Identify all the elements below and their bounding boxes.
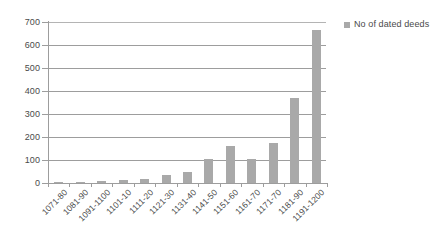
x-axis-tick <box>155 183 156 187</box>
bar <box>247 159 256 183</box>
bar <box>312 30 321 183</box>
y-axis-labels: 0100200300400500600700 <box>0 0 40 237</box>
x-axis-tick <box>284 183 285 187</box>
x-axis-tick <box>69 183 70 187</box>
x-axis-labels: 1071-801081-901091-11001101-101111-20112… <box>48 188 327 237</box>
y-axis-tick-label: 500 <box>0 64 40 73</box>
x-axis-tick <box>91 183 92 187</box>
y-axis-tick-label: 100 <box>0 156 40 165</box>
y-axis-tick <box>42 45 49 46</box>
x-axis-tick <box>241 183 242 187</box>
bar <box>226 146 235 183</box>
chart-screenshot: 0100200300400500600700 1071-801081-90109… <box>0 0 448 237</box>
x-axis-ticks <box>48 183 327 187</box>
x-axis-tick <box>134 183 135 187</box>
x-axis-tick <box>263 183 264 187</box>
bar <box>269 143 278 183</box>
x-axis-tick <box>177 183 178 187</box>
x-axis-tick <box>198 183 199 187</box>
y-axis-tick <box>42 22 49 23</box>
chart-legend: No of dated deeds <box>344 20 429 29</box>
y-axis-tick-label: 700 <box>0 18 40 27</box>
bar <box>204 159 213 183</box>
y-axis-tick-label: 400 <box>0 87 40 96</box>
y-axis-tick-label: 300 <box>0 110 40 119</box>
y-axis-tick-label: 0 <box>0 179 40 188</box>
legend-swatch-icon <box>344 22 350 28</box>
legend-label: No of dated deeds <box>354 20 429 29</box>
x-axis-tick <box>112 183 113 187</box>
y-axis-tick <box>42 114 49 115</box>
y-axis-tick <box>42 68 49 69</box>
y-axis-tick-label: 600 <box>0 41 40 50</box>
bar <box>183 172 192 183</box>
y-axis-tick <box>42 160 49 161</box>
x-axis-tick <box>220 183 221 187</box>
bar <box>162 175 171 183</box>
x-axis-tick <box>327 183 328 187</box>
y-axis-tick <box>42 137 49 138</box>
x-axis-tick <box>306 183 307 187</box>
y-axis-tick <box>42 91 49 92</box>
bar-series-no-of-dated-deeds <box>48 22 327 183</box>
bar <box>290 98 299 183</box>
y-axis-tick-label: 200 <box>0 133 40 142</box>
y-axis-tick <box>42 183 49 184</box>
